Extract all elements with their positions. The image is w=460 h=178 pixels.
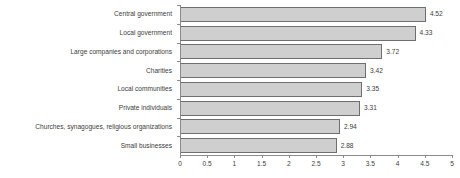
x-axis-tick — [289, 155, 290, 158]
y-axis-line — [180, 5, 181, 155]
bar-value-label: 3.72 — [386, 48, 399, 56]
x-axis-tick-label: 3.5 — [366, 160, 375, 168]
x-axis-tick — [262, 155, 263, 158]
x-axis-tick — [370, 155, 371, 158]
bar — [180, 82, 362, 97]
x-axis-tick-label: 4 — [396, 160, 400, 168]
x-axis-tick-label: 1.5 — [257, 160, 266, 168]
bar-value-label: 2.88 — [341, 142, 354, 150]
x-axis-tick — [180, 155, 181, 158]
bar — [180, 138, 337, 153]
bar-value-label: 3.42 — [370, 67, 383, 75]
x-axis-tick — [398, 155, 399, 158]
x-axis-tick — [316, 155, 317, 158]
x-axis-tick — [234, 155, 235, 158]
bar — [180, 44, 382, 59]
x-axis-tick-label: 3 — [341, 160, 345, 168]
x-axis-tick-label: 1 — [233, 160, 237, 168]
category-label: Churches, synagogues, religious organiza… — [0, 123, 172, 131]
bar — [180, 7, 426, 22]
y-axis-tick — [177, 118, 180, 119]
bar — [180, 63, 366, 78]
category-label: Local communities — [0, 85, 172, 93]
category-label: Charities — [0, 67, 172, 75]
y-axis-tick — [177, 24, 180, 25]
x-axis-tick — [343, 155, 344, 158]
x-axis-tick-label: 0 — [178, 160, 182, 168]
plot-area: 4.524.333.723.423.353.312.942.88 — [180, 5, 452, 155]
category-label: Private individuals — [0, 104, 172, 112]
bar-value-label: 2.94 — [344, 123, 357, 131]
y-axis-tick — [177, 5, 180, 6]
category-label: Local government — [0, 29, 172, 37]
category-axis-labels: Central governmentLocal governmentLarge … — [0, 5, 176, 155]
bar-value-label: 4.33 — [420, 29, 433, 37]
x-axis-tick — [452, 155, 453, 158]
y-axis-tick — [177, 80, 180, 81]
y-axis-tick — [177, 99, 180, 100]
x-axis-tick-label: 2 — [287, 160, 291, 168]
bar-value-label: 3.31 — [364, 104, 377, 112]
x-axis-tick-label: 2.5 — [311, 160, 320, 168]
x-axis-tick-label: 5 — [450, 160, 454, 168]
category-label: Large companies and corporations — [0, 48, 172, 56]
category-label: Small businesses — [0, 142, 172, 150]
x-axis-tick — [207, 155, 208, 158]
bar-value-label: 4.52 — [430, 10, 443, 18]
x-axis-tick — [425, 155, 426, 158]
x-axis-tick-label: 0.5 — [203, 160, 212, 168]
y-axis-tick — [177, 61, 180, 62]
y-axis-tick — [177, 136, 180, 137]
x-axis-tick-label: 4.5 — [420, 160, 429, 168]
bar-value-label: 3.35 — [366, 85, 379, 93]
category-label: Central government — [0, 10, 172, 18]
bar — [180, 26, 416, 41]
y-axis-tick — [177, 43, 180, 44]
bar — [180, 101, 360, 116]
bar-chart: Central governmentLocal governmentLarge … — [0, 0, 460, 178]
bar — [180, 119, 340, 134]
